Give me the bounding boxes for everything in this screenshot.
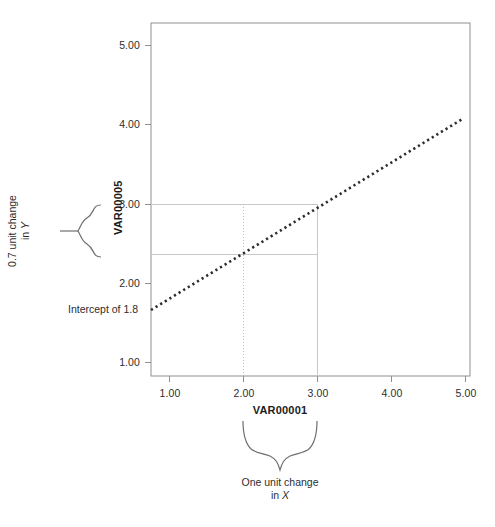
y-change-annotation-variable: Y: [19, 222, 31, 229]
y-tick-label-1: 1.00: [108, 356, 140, 368]
x-change-annotation-line1: One unit change: [180, 476, 380, 489]
x-change-annotation-variable: X: [282, 489, 289, 501]
x-tick-label-1: 1.00: [150, 387, 190, 399]
x-change-brace: [243, 421, 317, 470]
intercept-annotation: Intercept of 1.8: [68, 303, 138, 316]
x-tick-label-5: 5.00: [446, 387, 486, 399]
y-change-annotation-line2-prefix: in: [19, 229, 31, 240]
x-tick-label-4: 4.00: [372, 387, 412, 399]
y-tick-label-5: 5.00: [108, 39, 140, 51]
y-change-annotation-line1: 0.7 unit change: [6, 171, 19, 291]
y-tick-label-4: 4.00: [108, 118, 140, 130]
y-axis-ticks: [145, 46, 151, 363]
x-axis-ticks: [170, 376, 466, 382]
y-change-annotation-line2: in Y: [19, 171, 32, 291]
regression-line-chart-figure: 5.00 4.00 3.00 2.00 1.00 1.00 2.00 3.00 …: [0, 0, 495, 527]
x-tick-label-2: 2.00: [224, 387, 264, 399]
x-axis-title: VAR00001: [253, 404, 308, 416]
x-tick-label-3: 3.00: [298, 387, 338, 399]
x-change-annotation: One unit change in X: [180, 476, 380, 502]
plot-area-border: [151, 23, 470, 376]
x-change-annotation-line2: in X: [180, 489, 380, 502]
y-change-annotation: 0.7 unit change in Y: [6, 171, 32, 291]
y-tick-label-2: 2.00: [108, 277, 140, 289]
y-change-brace: [78, 205, 101, 257]
x-change-annotation-line2-prefix: in: [271, 489, 282, 501]
y-axis-title: VAR00005: [112, 180, 124, 235]
chart-vector-layer: [0, 0, 495, 527]
